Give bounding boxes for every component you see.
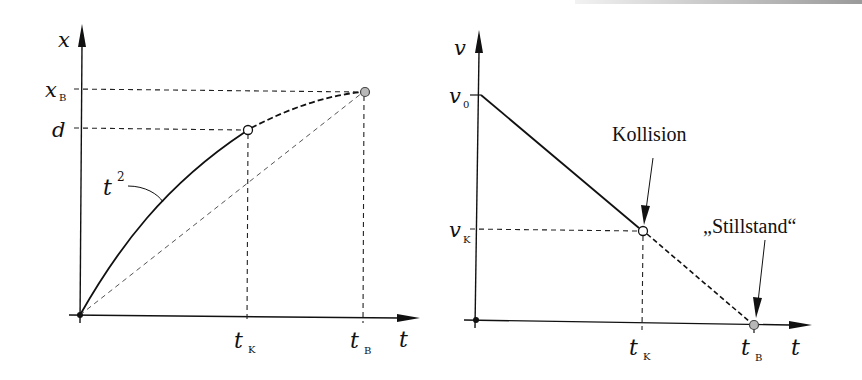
velocity-line-dashed: [647, 234, 750, 322]
svg-text:B: B: [755, 352, 762, 363]
tb-label-left: t B: [350, 328, 371, 356]
tb-label-right: t B: [741, 335, 762, 363]
collision-marker-left: [244, 126, 253, 135]
svg-text:B: B: [364, 345, 371, 356]
collision-arrow-shaft: [646, 158, 653, 210]
d-guide: [74, 128, 245, 130]
tk-guide-right: [642, 236, 643, 330]
collision-marker-right: [639, 227, 648, 236]
collision-annotation: Kollision: [612, 123, 686, 145]
tk-guide-left: [247, 134, 248, 322]
svg-text:t: t: [234, 328, 243, 353]
tb-guide-left: [363, 96, 364, 323]
svg-text:t: t: [741, 335, 750, 360]
svg-text:K: K: [643, 351, 651, 362]
position-curve-dashed: [251, 92, 361, 128]
standstill-marker-right: [750, 321, 759, 330]
t2-leader-line: [128, 186, 163, 202]
standstill-arrowhead: [753, 297, 762, 318]
vk-guide: [470, 229, 638, 231]
standstill-annotation: „Stillstand“: [703, 215, 796, 237]
v-axis-vertical: [475, 52, 479, 328]
xb-label: x B: [45, 78, 66, 103]
t-axis-horizontal-right: [464, 320, 790, 325]
right-x-axis-label: t: [791, 335, 800, 360]
svg-text:v: v: [449, 218, 461, 242]
diagram-canvas: x x B d t 2 t K t B t: [0, 0, 862, 380]
svg-text:B: B: [59, 92, 66, 103]
t-axis-arrowhead-left: [397, 314, 420, 322]
collision-arrowhead: [641, 205, 650, 225]
standstill-marker-left: [361, 88, 370, 97]
svg-text:t: t: [629, 335, 638, 360]
left-y-axis-label: x: [58, 28, 70, 52]
left-panel-position-time: x x B d t 2 t K t B t: [45, 24, 420, 356]
position-curve-solid: [80, 132, 245, 315]
t-axis-horizontal-left: [69, 315, 400, 318]
svg-text:t: t: [103, 175, 112, 200]
svg-text:v: v: [449, 84, 461, 108]
svg-text:K: K: [463, 234, 471, 245]
origin-dot-right: [473, 317, 479, 323]
svg-text:0: 0: [463, 99, 469, 110]
vk-label: v K: [449, 218, 471, 245]
velocity-line-solid: [481, 95, 639, 228]
tk-label-right: t K: [629, 335, 651, 362]
v-axis-arrowhead: [475, 30, 483, 53]
d-label: d: [52, 118, 65, 142]
svg-text:x: x: [45, 78, 57, 102]
secant-line: [80, 93, 362, 315]
x-axis-arrowhead: [78, 24, 86, 47]
x-axis-vertical: [80, 45, 82, 323]
svg-text:K: K: [248, 344, 256, 355]
tk-label-left: t K: [234, 328, 256, 355]
svg-text:2: 2: [117, 170, 125, 184]
left-x-axis-label: t: [399, 327, 408, 352]
standstill-arrow-shaft: [758, 240, 765, 302]
right-y-axis-label: v: [454, 36, 466, 60]
v0-label: v 0: [449, 84, 469, 110]
t2-label: t 2: [103, 170, 125, 200]
t-axis-arrowhead-right: [789, 321, 812, 329]
svg-text:t: t: [350, 328, 359, 353]
right-panel-velocity-time: v v 0 v K t K t B t Kollision „Stillstan…: [449, 30, 812, 363]
xb-guide: [74, 89, 362, 92]
